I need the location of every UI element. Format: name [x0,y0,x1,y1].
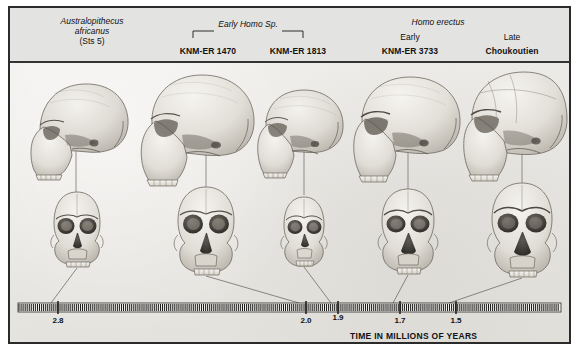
header-group-early-homo: Early Homo Sp. [198,19,298,29]
header-stage-early: Early [370,32,450,42]
axis-tick-label-1-9: 1.9 [324,313,352,322]
frontal-skull-knm-er-1470 [174,187,238,275]
lateral-skull-choukoutien [464,72,567,181]
frontal-skull-knm-er-3733 [378,189,438,274]
time-axis-caption: TIME IN MILLIONS OF YEARS [350,331,477,341]
lateral-skull-australopithecus [31,84,128,180]
bracket-early-homo [192,30,304,39]
taxon-genus: Australopithecus [32,16,152,26]
illustration-plate: 2.8 2.0 1.9 1.7 1.5 TIME IN MILLIONS OF … [10,63,569,342]
header-taxon-australopithecus: Australopithecus africanus (Sts 5) [32,16,152,46]
taxon-specimen-code: (Sts 5) [32,36,152,46]
axis-tick-label-2-8: 2.8 [44,316,72,325]
lateral-skull-knm-er-1470 [141,75,254,186]
header-group-homo-erectus: Homo erectus [378,17,498,27]
axis-tick-label-2-0: 2.0 [292,316,320,325]
leader-lines-to-timeline [51,267,522,303]
skull-illustrations [10,63,569,342]
header-specimen-knm-er-1813: KNM-ER 1813 [250,46,346,56]
header-stage-late: Late [472,32,552,42]
figure-header: Australopithecus africanus (Sts 5) Early… [10,8,569,63]
timeline-ruler [18,301,561,314]
figure-plate: Australopithecus africanus (Sts 5) Early… [8,6,571,344]
header-specimen-knm-er-1470: KNM-ER 1470 [160,46,256,56]
axis-tick-label-1-5: 1.5 [442,316,470,325]
lateral-skull-knm-er-3733 [354,77,460,182]
header-specimen-knm-er-3733: KNM-ER 3733 [362,46,458,56]
axis-tick-label-1-7: 1.7 [386,316,414,325]
lateral-skull-knm-er-1813 [258,90,343,178]
frontal-skull-knm-er-1813 [281,197,327,266]
taxon-species: africanus [32,26,152,36]
frontal-skull-choukoutien [487,183,556,277]
frontal-skull-australopithecus [51,192,103,267]
header-specimen-choukoutien: Choukoutien [466,46,558,56]
